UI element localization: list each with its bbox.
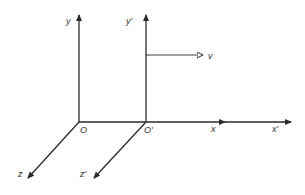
x-label: x [210, 124, 216, 134]
frame-s-prime [94, 15, 291, 178]
z-axis [28, 122, 79, 178]
y-prime-label: y' [125, 16, 133, 26]
y-label: y [65, 16, 71, 26]
z-prime-axis [94, 122, 146, 178]
origin-o-prime-label: O' [144, 125, 153, 135]
x-prime-label: x' [271, 124, 279, 134]
z-prime-label: z' [79, 169, 87, 179]
velocity-label: v [208, 51, 213, 61]
frame-s [28, 15, 225, 178]
z-label: z [17, 169, 23, 179]
origin-o-label: O [80, 125, 87, 135]
reference-frames-diagram: y y' v O O' x x' z z' [0, 0, 305, 195]
